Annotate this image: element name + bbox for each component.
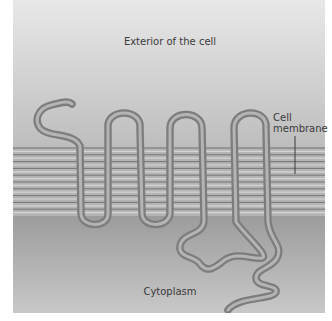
- exterior-label: Exterior of the cell: [124, 36, 216, 47]
- membrane-label-line1: Cell: [273, 112, 292, 123]
- cytoplasm-region: [13, 216, 325, 313]
- cytoplasm-label: Cytoplasm: [143, 286, 196, 297]
- membrane-protein-diagram: Exterior of the cell Cell membrane Cytop…: [0, 0, 332, 321]
- membrane-label-line2: membrane: [273, 123, 328, 134]
